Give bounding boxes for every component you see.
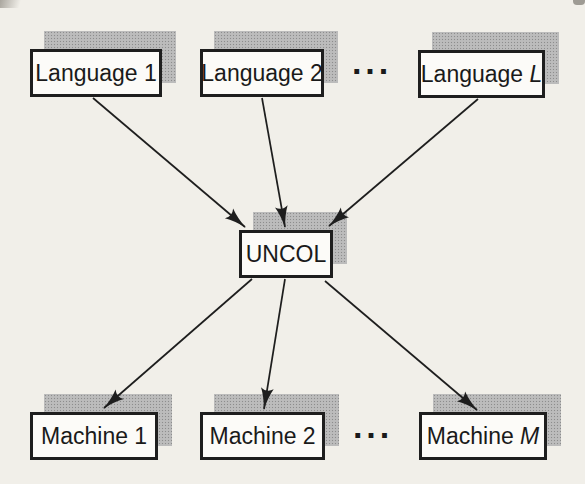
node-machine-2: Machine2 [200,412,325,460]
node-uncol: UNCOL [239,230,333,278]
node-machine-2-label: Machine [210,423,297,450]
node-machine-m: MachineM [419,412,547,460]
arrow-language-l-to-uncol [329,99,478,226]
node-language-1-index: 1 [144,60,157,87]
node-language-l-label: Language [421,61,523,88]
scan-artifact-top-right [573,0,585,5]
node-language-2-label: Language [201,60,303,87]
ellipsis-top: ··· [352,52,392,90]
node-machine-m-index: M [520,423,539,450]
node-language-l: LanguageL [418,50,545,98]
uncol-diagram: Language1 Language2 ··· LanguageL UNCOL … [0,0,585,484]
ellipsis-bottom: ··· [353,416,393,454]
scan-artifact-top-left [0,0,26,8]
node-machine-2-index: 2 [303,423,316,450]
arrow-language-2-to-uncol [262,98,285,227]
node-language-2: Language2 [200,49,324,97]
arrow-uncol-to-machine-2 [264,279,285,409]
node-language-l-index: L [529,61,542,88]
node-machine-1-label: Machine [41,423,128,450]
arrow-language-1-to-uncol [93,98,245,227]
arrow-uncol-to-machine-1 [104,279,252,408]
node-uncol-label: UNCOL [246,241,327,268]
node-machine-1-index: 1 [134,423,147,450]
node-language-1: Language1 [30,49,162,97]
node-machine-m-label: Machine [427,423,514,450]
node-language-1-label: Language [35,60,137,87]
node-machine-1: Machine1 [30,412,158,460]
arrow-uncol-to-machine-m [325,281,477,410]
node-language-2-index: 2 [310,60,323,87]
